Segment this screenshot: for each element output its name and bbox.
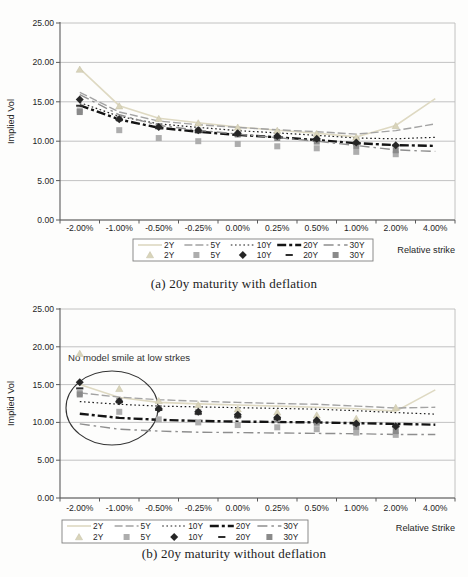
- legend-label: 30Y: [283, 532, 298, 542]
- x-tick-label: 1.00%: [344, 503, 369, 513]
- y-tick-label: 5.00: [37, 455, 54, 465]
- y-tick-label: 15.00: [32, 97, 54, 107]
- chart-a-implied-vol-with-deflation: 0.005.0010.0015.0020.0025.00Implied Vol-…: [0, 0, 468, 270]
- legend-label: 2Y: [164, 250, 175, 260]
- y-tick-label: 20.00: [32, 57, 54, 67]
- x-tick-label: -1.00%: [106, 503, 134, 513]
- dash-marker: [76, 105, 83, 107]
- triangle-marker: [116, 385, 123, 391]
- legend-label: 5Y: [210, 250, 221, 260]
- legend: 2Y5Y10Y20Y30Y2Y5Y10Y20Y30Y: [62, 520, 308, 543]
- x-tick-label: 0.50%: [305, 503, 330, 513]
- legend-label: 2Y: [93, 521, 104, 531]
- x-tick-label: 0.25%: [265, 503, 290, 513]
- legend-marker-sample-5Y: [124, 534, 130, 540]
- legend-label: 20Y: [236, 532, 251, 542]
- x-axis-title: Relative strike: [397, 245, 455, 255]
- annotation-text: No model smile at low strkes: [68, 352, 190, 363]
- x-tick-label: 1.00%: [344, 223, 369, 233]
- y-tick-label: 15.00: [32, 380, 54, 390]
- x-tick-label: 4.00%: [423, 223, 448, 233]
- chart-b-caption: (b) 20y maturity without deflation: [0, 546, 468, 562]
- dash-marker: [76, 387, 83, 389]
- square-marker: [156, 416, 162, 422]
- square-marker: [156, 135, 162, 141]
- legend-label: 10Y: [188, 532, 203, 542]
- x-tick-label: 2.00%: [384, 223, 409, 233]
- square-marker: [77, 391, 83, 397]
- y-tick-label: 0.00: [37, 493, 54, 503]
- square-marker: [77, 109, 83, 115]
- y-tick-label: 10.00: [32, 417, 54, 427]
- x-tick-label: -1.00%: [106, 223, 134, 233]
- x-tick-label: -0.50%: [145, 223, 173, 233]
- x-tick-label: 0.00%: [226, 223, 251, 233]
- legend-marker-sample-30Y: [333, 252, 339, 258]
- line-series-10Y: [80, 103, 436, 139]
- legend-label: 20Y: [236, 521, 251, 531]
- line-series-30Y: [80, 424, 436, 435]
- legend-marker-sample-30Y: [266, 534, 272, 540]
- legend-label: 2Y: [93, 532, 104, 542]
- legend-marker-sample-20Y: [286, 254, 293, 256]
- square-marker: [274, 424, 280, 430]
- y-axis-title: Implied Vol: [6, 381, 16, 426]
- gridlines: [56, 23, 455, 220]
- line-series-2Y: [80, 69, 436, 137]
- legend-label: 10Y: [257, 250, 272, 260]
- square-marker: [116, 409, 122, 415]
- square-marker: [274, 143, 280, 149]
- legend-marker-sample-5Y: [193, 252, 199, 258]
- line-series-20Y: [80, 105, 436, 146]
- x-tick-label: 0.50%: [305, 223, 330, 233]
- square-marker: [195, 138, 201, 144]
- x-tick-label: -2.00%: [66, 503, 94, 513]
- chart-b-implied-vol-without-deflation: 0.005.0010.0015.0020.0025.00Implied Vol-…: [0, 300, 468, 545]
- x-tick-label: -0.50%: [145, 503, 173, 513]
- x-tick-label: 4.00%: [423, 503, 448, 513]
- square-marker: [235, 422, 241, 428]
- square-marker: [235, 141, 241, 147]
- legend-marker-sample-20Y: [218, 536, 225, 538]
- legend-label: 20Y: [303, 250, 318, 260]
- legend: 2Y5Y10Y20Y30Y2Y5Y10Y20Y30Y: [133, 239, 373, 261]
- x-tick-label: 0.00%: [226, 503, 251, 513]
- x-tick-label: -0.25%: [185, 223, 213, 233]
- marker-series-2Y: [76, 66, 399, 140]
- y-axis-title: Implied Vol: [6, 99, 16, 144]
- chart-a-caption: (a) 20y maturity with deflation: [0, 276, 468, 292]
- legend-label: 5Y: [141, 532, 152, 542]
- x-tick-label: -2.00%: [66, 223, 94, 233]
- square-marker: [353, 430, 359, 436]
- legend-label: 2Y: [164, 240, 175, 250]
- legend-label: 30Y: [283, 521, 298, 531]
- y-tick-label: 20.00: [32, 342, 54, 352]
- legend-label: 5Y: [141, 521, 152, 531]
- square-marker: [116, 127, 122, 133]
- square-marker: [353, 149, 359, 155]
- legend-label: 5Y: [210, 240, 221, 250]
- legend-label: 30Y: [350, 250, 365, 260]
- line-series-20Y: [80, 414, 436, 425]
- figure-page: 0.005.0010.0015.0020.0025.00Implied Vol-…: [0, 0, 468, 577]
- y-tick-label: 5.00: [37, 176, 54, 186]
- legend-label: 10Y: [257, 240, 272, 250]
- x-axis-title: Relative Strike: [396, 523, 455, 533]
- y-tick-label: 25.00: [32, 304, 54, 314]
- x-tick-label: 2.00%: [384, 503, 409, 513]
- y-tick-label: 10.00: [32, 136, 54, 146]
- y-tick-label: 25.00: [32, 18, 54, 28]
- legend-label: 30Y: [350, 240, 365, 250]
- y-tick-label: 0.00: [37, 215, 54, 225]
- x-tick-label: -0.25%: [185, 503, 213, 513]
- square-marker: [314, 426, 320, 432]
- legend-label: 20Y: [303, 240, 318, 250]
- square-marker: [314, 145, 320, 151]
- x-tick-label: 0.25%: [265, 223, 290, 233]
- square-marker: [195, 419, 201, 425]
- legend-label: 10Y: [188, 521, 203, 531]
- triangle-marker: [76, 66, 83, 72]
